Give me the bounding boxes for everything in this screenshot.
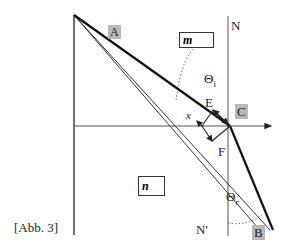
point-f-label: F xyxy=(218,145,225,158)
subscript-r: r xyxy=(235,197,239,207)
vector-f xyxy=(202,126,212,141)
normal-n-prime-label: N' xyxy=(196,223,208,236)
point-x-label: x xyxy=(186,110,191,121)
ray-thin-2 xyxy=(74,15,270,230)
point-b-label: B xyxy=(252,225,265,240)
theta-symbol: Θ xyxy=(226,189,235,204)
vector-fc xyxy=(212,126,230,141)
figure-caption: [Abb. 3] xyxy=(14,221,58,234)
refracted-ray xyxy=(230,126,273,230)
point-a-label: A xyxy=(108,25,121,39)
medium-n-box: n xyxy=(138,176,165,196)
vector-x xyxy=(202,110,213,126)
medium-m-box: m xyxy=(179,32,214,48)
point-c-label: C xyxy=(235,104,248,119)
optics-diagram: A C B E F x N N' Θi Θr m n [Abb. 3] xyxy=(0,0,292,250)
angle-reflection-label: Θr xyxy=(226,190,239,207)
vector-ce xyxy=(213,110,228,124)
diagram-svg xyxy=(0,0,292,250)
point-e-label: E xyxy=(205,96,213,109)
angle-incidence-label: Θi xyxy=(204,72,216,89)
normal-n-label: N xyxy=(231,19,240,32)
vector-xb xyxy=(197,121,202,126)
theta-symbol: Θ xyxy=(204,71,213,86)
subscript-i: i xyxy=(213,79,216,89)
